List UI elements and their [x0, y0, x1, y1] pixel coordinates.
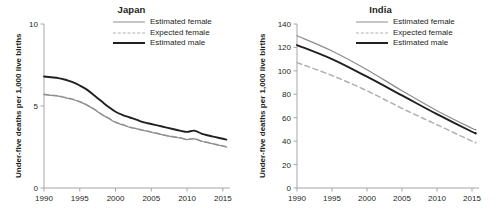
y-axis-tick-label: 0: [8, 184, 38, 193]
y-axis-tick-label: 120: [261, 43, 291, 52]
x-axis-tick-label: 2010: [417, 194, 457, 203]
y-axis-tick-label: 10: [8, 20, 38, 29]
x-axis-tick-label: 2000: [96, 194, 136, 203]
x-axis-tick-label: 2010: [167, 194, 207, 203]
plot-svg-india: [297, 24, 479, 188]
x-axis-tick-label: 1995: [312, 194, 352, 203]
chart-panel-japan: Japan Estimated female Expected female E…: [0, 0, 249, 223]
y-axis-tick-label: 140: [261, 20, 291, 29]
y-axis-tick-label: 5: [8, 102, 38, 111]
plot-area-japan: 0510199019952000200520102015: [44, 24, 230, 188]
x-axis-tick-label: 2000: [347, 194, 387, 203]
two-panel-line-chart-figure: Japan Estimated female Expected female E…: [0, 0, 498, 223]
y-axis-title-india: Under-five deaths per 1,000 live births: [258, 34, 267, 179]
y-axis-tick-label: 0: [261, 184, 291, 193]
chart-title-japan: Japan: [0, 4, 249, 15]
y-axis-tick-label: 100: [261, 66, 291, 75]
x-axis-tick-label: 1995: [60, 194, 100, 203]
data-line-estimated-male: [44, 76, 226, 139]
x-axis-tick-label: 2015: [203, 194, 243, 203]
data-line-expected-female: [44, 94, 226, 146]
y-axis-tick-label: 20: [261, 160, 291, 169]
chart-panel-india: India Estimated female Expected female E…: [249, 0, 498, 223]
data-line-expected-female: [297, 63, 476, 143]
x-axis-tick-label: 1990: [277, 194, 317, 203]
y-axis-tick-label: 40: [261, 137, 291, 146]
plot-svg-japan: [44, 24, 230, 188]
x-axis-tick-label: 1990: [24, 194, 64, 203]
y-axis-tick-label: 80: [261, 90, 291, 99]
y-axis-tick-label: 60: [261, 113, 291, 122]
data-line-estimated-female: [297, 36, 476, 130]
x-axis-tick-label: 2005: [382, 194, 422, 203]
data-line-estimated-female: [44, 95, 226, 147]
x-axis-tick-label: 2015: [452, 194, 492, 203]
plot-area-india: 0204060801001201401990199520002005201020…: [297, 24, 479, 188]
data-line-estimated-male: [297, 45, 476, 133]
chart-title-india: India: [249, 4, 498, 15]
x-axis-tick-label: 2005: [131, 194, 171, 203]
